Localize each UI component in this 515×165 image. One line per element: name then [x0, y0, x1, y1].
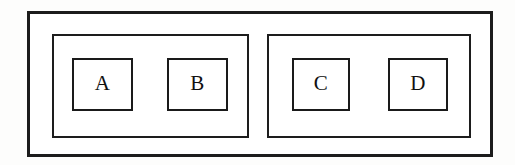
box-d-label: D	[410, 73, 426, 94]
box-c-label: C	[314, 73, 329, 94]
box-c: C	[292, 58, 350, 111]
box-a: A	[72, 58, 133, 111]
outer-frame: A B C D	[27, 11, 493, 157]
diagram-canvas: A B C D	[0, 0, 515, 165]
box-a-label: A	[95, 73, 111, 94]
box-b: B	[167, 58, 228, 111]
group-box-left: A B	[52, 34, 249, 138]
box-d: D	[388, 58, 448, 111]
box-b-label: B	[190, 73, 205, 94]
group-box-right: C D	[267, 34, 471, 138]
